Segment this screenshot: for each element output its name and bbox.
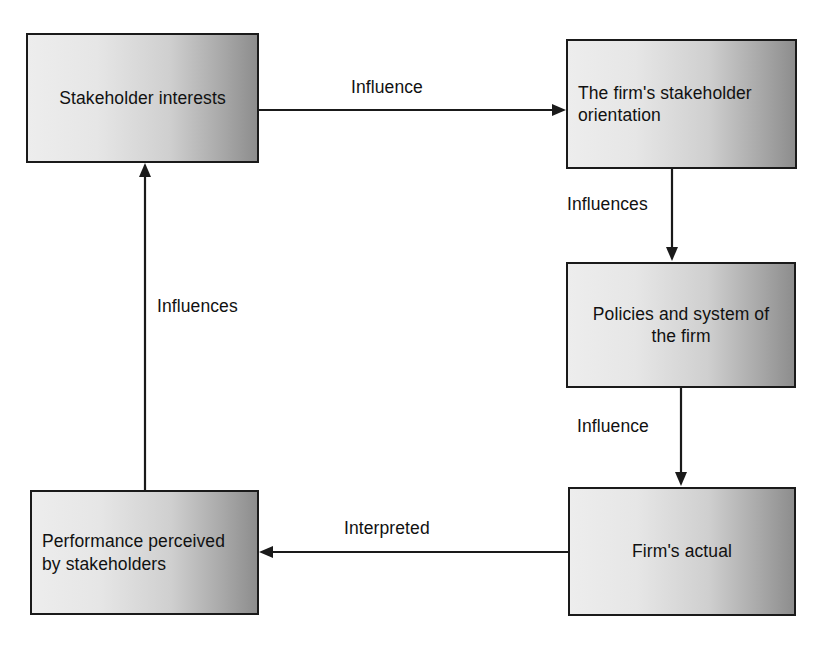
node-policies-system[interactable]: Policies and system of the firm bbox=[566, 262, 796, 388]
node-firm-stakeholder-orientation[interactable]: The firm's stakeholder orientation bbox=[566, 39, 797, 169]
diagram-canvas: Stakeholder interests The firm's stakeho… bbox=[0, 0, 820, 648]
node-label: Firm's actual bbox=[570, 540, 794, 562]
edge-label-influences-right: Influences bbox=[567, 194, 648, 215]
edge-orientation-to-policies bbox=[666, 169, 678, 261]
node-performance-perceived[interactable]: Performance perceived by stakeholders bbox=[30, 490, 259, 615]
node-label: The firm's stakeholder orientation bbox=[568, 82, 795, 127]
edge-policies-to-firms-actual bbox=[675, 388, 687, 486]
edge-label-interpreted-bottom: Interpreted bbox=[344, 518, 430, 539]
node-label: Performance perceived by stakeholders bbox=[32, 530, 257, 575]
edge-label-influences-left: Influences bbox=[157, 296, 238, 317]
edge-label-influence-right: Influence bbox=[577, 416, 649, 437]
edge-stakeholder-interests-to-orientation bbox=[259, 104, 566, 116]
node-label: Stakeholder interests bbox=[28, 87, 257, 109]
node-label: Policies and system of the firm bbox=[568, 303, 794, 348]
node-firms-actual[interactable]: Firm's actual bbox=[568, 487, 796, 616]
edge-firms-actual-to-performance bbox=[259, 546, 568, 558]
node-stakeholder-interests[interactable]: Stakeholder interests bbox=[26, 33, 259, 163]
edge-label-influence-top: Influence bbox=[351, 77, 423, 98]
edge-performance-to-stakeholder-interests bbox=[139, 163, 151, 490]
